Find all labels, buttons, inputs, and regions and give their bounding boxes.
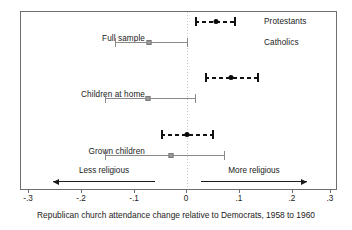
- x-tick-label: -.3: [23, 194, 33, 203]
- arrow-less-religious: [53, 177, 155, 186]
- point-estimate-marker: [229, 75, 234, 80]
- interval-protestants-full-sample: [195, 17, 236, 26]
- interval-line: [115, 42, 188, 43]
- forest-plot-figure: Full sample Children at home: [0, 0, 352, 230]
- interval-cap-right: [212, 130, 214, 139]
- arrow-shaft: [201, 181, 307, 182]
- interval-cap-left: [115, 38, 116, 47]
- interval-catholics-full-sample: [115, 38, 188, 47]
- interval-cap-left: [195, 17, 197, 26]
- plot-area: Full sample Children at home: [20, 11, 337, 190]
- interval-catholics-grown-children: [105, 151, 225, 160]
- x-tick-label: .1: [236, 194, 243, 203]
- point-estimate-marker: [214, 19, 219, 24]
- annotation-more-religious: More religious: [201, 166, 307, 175]
- x-tick-mark: [239, 190, 240, 193]
- x-tick-label: .3: [327, 194, 334, 203]
- x-tick-mark: [292, 190, 293, 193]
- interval-cap-right: [187, 38, 188, 47]
- arrow-head-right-icon: [301, 179, 307, 185]
- point-estimate-marker: [146, 96, 151, 101]
- x-tick-mark: [28, 190, 29, 193]
- annotation-less-religious: Less religious: [53, 166, 155, 175]
- arrow-head-left-icon: [53, 179, 59, 185]
- interval-cap-left: [205, 73, 207, 82]
- interval-cap-right: [224, 151, 225, 160]
- point-estimate-marker: [169, 153, 174, 158]
- interval-cap-right: [195, 94, 196, 103]
- x-tick-label: -.2: [76, 194, 86, 203]
- legend-label-catholics: Catholics: [264, 38, 299, 47]
- interval-protestants-children-at-home: [205, 73, 259, 82]
- x-tick-mark: [134, 190, 135, 193]
- point-estimate-marker: [147, 40, 152, 45]
- interval-cap-left: [105, 151, 106, 160]
- interval-protestants-grown-children: [161, 130, 214, 139]
- point-estimate-marker: [185, 132, 190, 137]
- interval-cap-right: [234, 17, 236, 26]
- x-tick-label: -.1: [129, 194, 139, 203]
- arrow-shaft: [53, 181, 155, 182]
- x-tick-label: .2: [289, 194, 296, 203]
- x-axis-title: Republican church attendance change rela…: [0, 210, 352, 220]
- interval-line: [105, 155, 225, 156]
- interval-line: [105, 98, 196, 99]
- legend-label-protestants: Protestants: [264, 17, 307, 26]
- x-tick-mark: [81, 190, 82, 193]
- interval-cap-left: [105, 94, 106, 103]
- x-axis: -.3 -.2 -.1 0 .1 .2 .3: [20, 190, 337, 210]
- x-tick-mark: [186, 190, 187, 193]
- interval-cap-left: [161, 130, 163, 139]
- x-tick-label: 0: [184, 194, 189, 203]
- interval-cap-right: [257, 73, 259, 82]
- x-tick-mark: [330, 190, 331, 193]
- arrow-more-religious: [201, 177, 307, 186]
- interval-catholics-children-at-home: [105, 94, 196, 103]
